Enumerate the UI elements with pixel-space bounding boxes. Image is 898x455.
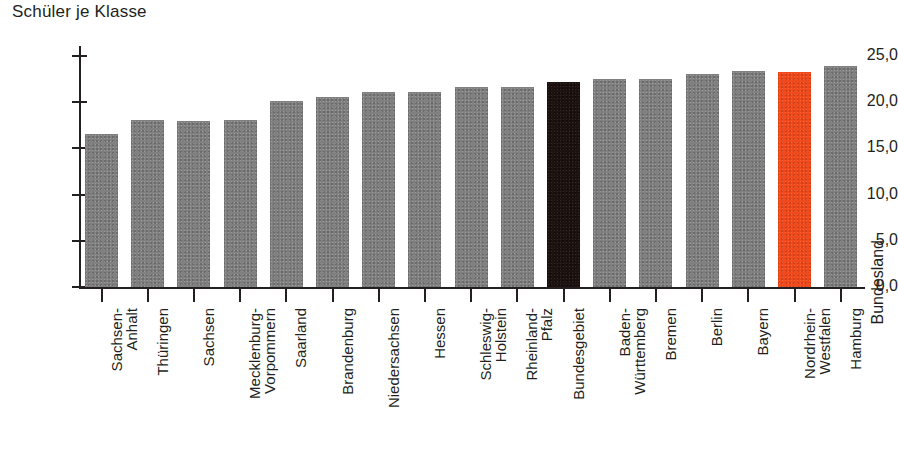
x-axis-tick — [840, 289, 842, 302]
x-axis-category-label-line: Westfalen — [817, 308, 832, 455]
chart-container: Schüler je Klasse 0,05,010,015,020,025,0… — [0, 0, 898, 455]
x-axis-tick — [332, 289, 334, 302]
bar — [177, 121, 210, 287]
x-axis-category-label-line: Brandenburg — [340, 308, 355, 455]
x-axis-tick — [470, 289, 472, 302]
x-axis-category-label: Nordrhein-Westfalen — [802, 308, 832, 455]
x-axis-category-label: Rheinland-Pfalz — [524, 308, 554, 455]
x-axis-tick — [378, 289, 380, 302]
x-axis-category-label-line: Berlin — [709, 308, 724, 455]
x-axis-category-label-line: Hamburg — [848, 308, 863, 455]
y-axis-tick — [72, 55, 87, 57]
bar — [85, 134, 118, 287]
x-axis-category-label: Thüringen — [155, 308, 170, 455]
bar — [455, 87, 488, 287]
x-axis-category-label-line: Thüringen — [155, 308, 170, 455]
y-axis-tick — [72, 101, 87, 103]
bar — [686, 74, 719, 287]
x-axis-category-label-line: Niedersachsen — [386, 308, 401, 455]
x-axis-title: Bundesland — [869, 240, 887, 370]
bar — [547, 82, 580, 287]
x-axis-category-label-line: Anhalt — [124, 308, 139, 455]
x-axis-tick — [747, 289, 749, 302]
x-axis-category-label-line: Pfalz — [539, 308, 554, 455]
x-axis-category-label-line: Schleswig- — [478, 308, 493, 455]
x-axis-category-label: Bremen — [663, 308, 678, 455]
x-axis-category-label: Niedersachsen — [386, 308, 401, 455]
x-axis-category-label-line: Saarland — [293, 308, 308, 455]
x-axis-category-label-line: Rheinland- — [524, 308, 539, 455]
x-axis-category-label: Sachsen — [201, 308, 216, 455]
x-axis-category-label-line: Württemberg — [632, 308, 647, 455]
bar — [593, 79, 626, 287]
bar — [224, 120, 257, 287]
x-axis-category-label: Sachsen-Anhalt — [109, 308, 139, 455]
x-axis-category-label: Brandenburg — [340, 308, 355, 455]
x-axis-category-label: Bundesgebiet — [571, 308, 586, 455]
x-axis-category-label-line: Bayern — [755, 308, 770, 455]
x-axis-tick — [655, 289, 657, 302]
x-axis-category-label-line: Hessen — [432, 308, 447, 455]
x-axis-tick — [609, 289, 611, 302]
bar — [316, 97, 349, 287]
x-axis-category-label: Bayern — [755, 308, 770, 455]
x-axis-tick — [701, 289, 703, 302]
plot-area: 0,05,010,015,020,025,0 Sachsen-AnhaltThü… — [0, 0, 898, 455]
x-axis-category-label: Hessen — [432, 308, 447, 455]
bar — [824, 66, 857, 287]
x-axis-tick — [147, 289, 149, 302]
x-axis-tick — [193, 289, 195, 302]
x-axis-tick — [794, 289, 796, 302]
x-axis-category-label-line: Holstein — [493, 308, 508, 455]
x-axis-category-label-line: Bremen — [663, 308, 678, 455]
bar — [501, 87, 534, 287]
bar — [778, 72, 811, 287]
x-axis-category-label: Mecklenburg-Vorpommern — [247, 308, 277, 455]
bar — [732, 71, 765, 287]
bar — [131, 120, 164, 287]
x-axis-tick — [516, 289, 518, 302]
x-axis-tick — [285, 289, 287, 302]
x-axis-category-label: Baden-Württemberg — [617, 308, 647, 455]
x-axis-category-label: Saarland — [293, 308, 308, 455]
x-axis-tick — [424, 289, 426, 302]
x-axis-category-label-line: Nordrhein- — [802, 308, 817, 455]
x-axis-category-label-line: Sachsen — [201, 308, 216, 455]
x-axis-category-label: Schleswig-Holstein — [478, 308, 508, 455]
y-axis-tick-label: 25,0 — [840, 47, 898, 63]
x-axis-category-label-line: Baden- — [617, 308, 632, 455]
x-axis-category-label-line: Vorpommern — [262, 308, 277, 455]
bar — [362, 92, 395, 287]
x-axis-tick — [239, 289, 241, 302]
x-axis-category-label-line: Sachsen- — [109, 308, 124, 455]
bar — [270, 101, 303, 287]
x-axis-tick — [101, 289, 103, 302]
bar — [408, 92, 441, 287]
x-axis-category-label: Hamburg — [848, 308, 863, 455]
x-axis-category-label-line: Bundesgebiet — [571, 308, 586, 455]
x-axis-tick — [563, 289, 565, 302]
x-axis-category-label-line: Mecklenburg- — [247, 308, 262, 455]
y-axis-line — [79, 46, 81, 289]
bar — [639, 79, 672, 287]
x-axis-category-label: Berlin — [709, 308, 724, 455]
